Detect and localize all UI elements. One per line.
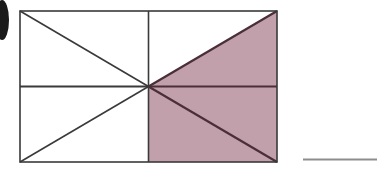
geometry-figure: [0, 0, 387, 173]
